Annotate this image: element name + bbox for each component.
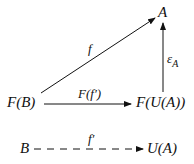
label-epsilon-subscript: A <box>172 58 178 69</box>
node-A: A <box>158 5 167 20</box>
arrow-f <box>41 18 155 93</box>
node-FUA: F(U(A)) <box>136 95 185 110</box>
label-f: f <box>88 42 92 55</box>
node-FB: F(B) <box>7 95 35 110</box>
node-UA: U(A) <box>147 141 177 156</box>
node-B: B <box>20 141 29 156</box>
label-epsilon: εA <box>167 52 178 69</box>
label-fprime: f′ <box>88 132 94 145</box>
label-Ff: F(f′) <box>78 87 101 100</box>
